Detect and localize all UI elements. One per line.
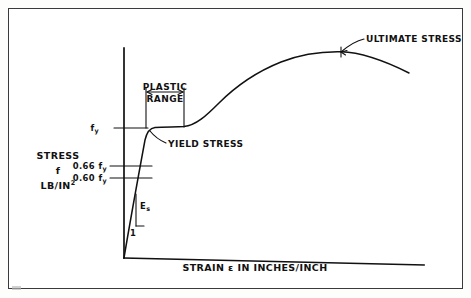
x-axis-title: STRAIN ε IN INCHES/INCH xyxy=(183,262,328,273)
yield-stress-annotation: YIELD STRESS xyxy=(150,131,243,149)
ultimate-stress-label: ULTIMATE STRESS xyxy=(366,34,462,44)
yield-stress-label: YIELD STRESS xyxy=(167,139,243,149)
modulus-label: Es xyxy=(140,201,150,213)
tick-label-060fy: 0.60 fy xyxy=(73,173,108,185)
tick-label-fy-sub: y xyxy=(94,127,99,135)
tick-label-066fy-main: 0.66 f xyxy=(73,161,103,171)
y-axis-units-superscript: 2 xyxy=(71,179,76,187)
plastic-range-label-line2: RANGE xyxy=(147,94,184,104)
axes-group xyxy=(124,48,424,265)
stress-strain-chart: fy 0.66 fy 0.60 fy STRESS f LB/IN2 STRAI… xyxy=(0,0,471,298)
figure-root: fy 0.66 fy 0.60 fy STRESS f LB/IN2 STRAI… xyxy=(0,0,471,298)
yield-stress-leader-line xyxy=(150,131,166,143)
modulus-slope-triangle: Es 1 xyxy=(130,194,150,238)
modulus-label-sub: s xyxy=(146,205,150,213)
modulus-run-label: 1 xyxy=(130,228,136,238)
tick-label-066fy-sub: y xyxy=(102,165,107,173)
x-axis-title-label: STRAIN ε IN INCHES/INCH xyxy=(183,262,328,273)
y-axis-units-main: LB/IN xyxy=(40,180,70,191)
y-axis-title-line3: LB/IN2 xyxy=(40,179,75,191)
ultimate-stress-leader-line xyxy=(341,39,364,52)
tick-label-fy: fy xyxy=(90,123,99,135)
y-axis-title-line1: STRESS xyxy=(37,150,80,161)
tick-label-060fy-sub: y xyxy=(102,177,107,185)
plastic-range-annotation: PLASTIC RANGE xyxy=(143,82,188,128)
tick-label-060fy-main: 0.60 f xyxy=(73,173,103,183)
y-axis-title-line2: f xyxy=(56,165,61,176)
plastic-range-label-line1: PLASTIC xyxy=(143,82,188,92)
tick-label-066fy: 0.66 fy xyxy=(73,161,108,173)
